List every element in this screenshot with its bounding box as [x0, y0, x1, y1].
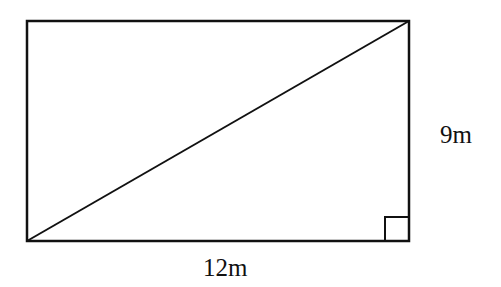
diagonal-line	[27, 21, 409, 241]
rectangle-diagram	[0, 0, 501, 287]
right-angle-marker	[385, 217, 409, 241]
width-label: 12m	[203, 255, 247, 280]
height-label: 9m	[440, 122, 472, 147]
